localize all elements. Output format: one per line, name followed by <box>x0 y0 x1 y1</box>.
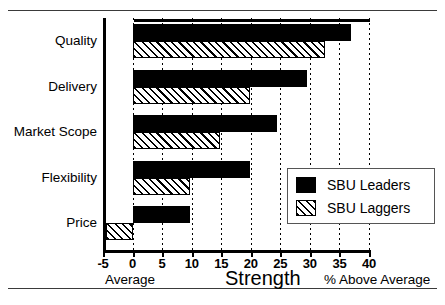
legend-label-leaders: SBU Leaders <box>327 177 410 193</box>
axis-note-percent-above-average: % Above Average <box>324 272 430 288</box>
x-tick-label-neg5: -5 <box>88 256 118 271</box>
category-label-delivery: Delivery <box>48 79 97 95</box>
bar-price-sbu-laggers <box>106 223 133 240</box>
x-tick-label-35: 35 <box>324 256 354 271</box>
category-label-price: Price <box>66 215 97 231</box>
top-divider-rule <box>8 10 437 11</box>
legend-label-laggers: SBU Laggers <box>327 200 410 216</box>
legend-item-laggers: SBU Laggers <box>296 197 410 219</box>
x-tick-label-5: 5 <box>147 256 177 271</box>
x-tick-label-10: 10 <box>177 256 207 271</box>
bar-delivery-sbu-leaders <box>133 70 307 87</box>
bar-flexibility-sbu-laggers <box>133 178 191 195</box>
bar-market-scope-sbu-leaders <box>133 115 278 132</box>
bar-market-scope-sbu-laggers <box>133 132 220 149</box>
category-label-quality: Quality <box>55 33 97 49</box>
bar-chart-figure: -50510152025303540 QualityDeliveryMarket… <box>0 0 445 305</box>
hatched-swatch-icon <box>296 200 316 216</box>
category-label-flexibility: Flexibility <box>41 170 97 186</box>
x-tick-label-0: 0 <box>118 256 148 271</box>
bar-delivery-sbu-laggers <box>133 87 250 104</box>
bottom-divider-rule <box>8 288 437 289</box>
solid-black-swatch-icon <box>296 177 316 193</box>
chart-legend: SBU Leaders SBU Laggers <box>287 168 435 224</box>
x-axis-title: Strength <box>225 267 301 290</box>
x-tick-label-40: 40 <box>354 256 384 271</box>
bar-flexibility-sbu-leaders <box>133 161 250 178</box>
category-label-market-scope: Market Scope <box>14 124 97 140</box>
x-axis-line <box>103 250 371 253</box>
bar-quality-sbu-leaders <box>133 24 352 41</box>
bar-price-sbu-leaders <box>133 206 191 223</box>
bar-quality-sbu-laggers <box>133 41 325 58</box>
axis-note-average: Average <box>105 272 155 288</box>
legend-item-leaders: SBU Leaders <box>296 174 410 196</box>
